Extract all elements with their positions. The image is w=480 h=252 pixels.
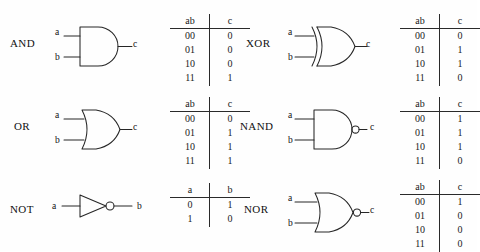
- header-output: c: [210, 14, 250, 28]
- table-divider: [209, 183, 210, 227]
- header-output: c: [440, 180, 480, 194]
- cell-input: 11: [170, 71, 210, 85]
- cell-input: 11: [400, 71, 440, 85]
- cell-input: 01: [400, 43, 440, 57]
- cell-output: 0: [210, 57, 250, 71]
- table-divider: [439, 180, 440, 252]
- header-output: b: [210, 183, 250, 197]
- cell-output: 1: [440, 57, 480, 71]
- truth-table-xor: ab c 00 0 01 1 10 1 11 0: [400, 14, 480, 85]
- cell-input: 00: [400, 112, 440, 126]
- input-label-xor-b: b: [288, 52, 293, 62]
- input-label-nand-b: b: [288, 135, 293, 145]
- cell-input: 11: [400, 237, 440, 251]
- table-header-row: ab c: [400, 14, 480, 28]
- table-divider: [439, 14, 440, 86]
- input-label-nor-a: a: [288, 193, 292, 203]
- or-gate-symbol: [62, 105, 138, 155]
- table-header-row: ab c: [400, 180, 480, 194]
- gate-label-nor: NOR: [244, 203, 268, 215]
- table-row: 00 1: [400, 195, 480, 209]
- cell-input: 01: [400, 126, 440, 140]
- header-inputs: ab: [400, 97, 440, 111]
- input-label-nor-b: b: [288, 218, 293, 228]
- cell-output: 1: [440, 126, 480, 140]
- table-row: 10 0: [400, 223, 480, 237]
- table-row: 00 1: [400, 112, 480, 126]
- table-header-row: ab c: [400, 97, 480, 111]
- truth-table-and: ab c 00 0 01 0 10 0 11 1: [170, 14, 250, 85]
- input-label-and-b: b: [55, 52, 60, 62]
- nand-gate-symbol: [295, 105, 375, 155]
- input-label-or-b: b: [55, 135, 60, 145]
- table-row: 01 1: [400, 126, 480, 140]
- header-inputs: ab: [400, 14, 440, 28]
- xor-gate-symbol: [295, 22, 371, 72]
- input-label-nand-a: a: [288, 110, 292, 120]
- header-inputs: ab: [170, 14, 210, 28]
- input-label-and-a: a: [55, 27, 59, 37]
- header-output: c: [210, 97, 250, 111]
- cell-output: 0: [440, 223, 480, 237]
- table-row: 10 1: [400, 57, 480, 71]
- table-row: 00 0: [170, 29, 250, 43]
- cell-output: 1: [440, 112, 480, 126]
- cell-output: 1: [210, 140, 250, 154]
- cell-input: 01: [170, 126, 210, 140]
- cell-input: 01: [170, 43, 210, 57]
- truth-table-or: ab c 00 0 01 1 10 1 11 1: [170, 97, 250, 168]
- cell-input: 0: [170, 198, 210, 212]
- gate-label-or: OR: [14, 120, 30, 132]
- cell-output: 1: [440, 43, 480, 57]
- inversion-bubble: [106, 202, 114, 210]
- table-row: 10 1: [170, 140, 250, 154]
- cell-input: 10: [400, 57, 440, 71]
- cell-output: 0: [210, 29, 250, 43]
- header-inputs: a: [170, 183, 210, 197]
- table-row: 01 0: [170, 43, 250, 57]
- table-header-row: ab c: [170, 14, 250, 28]
- cell-input: 01: [400, 209, 440, 223]
- header-output: c: [440, 14, 480, 28]
- input-label-not-a: a: [52, 201, 56, 211]
- table-row: 11 0: [400, 154, 480, 168]
- and-gate-symbol: [62, 22, 138, 72]
- gate-label-xor: XOR: [246, 37, 270, 49]
- table-row: 0 1: [170, 198, 250, 212]
- cell-output: 1: [210, 154, 250, 168]
- cell-input: 00: [170, 112, 210, 126]
- header-output: c: [440, 97, 480, 111]
- table-row: 01 1: [170, 126, 250, 140]
- table-row: 10 1: [400, 140, 480, 154]
- table-row: 11 0: [400, 71, 480, 85]
- cell-input: 1: [170, 212, 210, 226]
- cell-output: 0: [440, 209, 480, 223]
- gate-label-nand: NAND: [240, 120, 273, 132]
- table-row: 1 0: [170, 212, 250, 226]
- table-row: 00 0: [400, 29, 480, 43]
- cell-input: 00: [400, 29, 440, 43]
- cell-input: 10: [170, 57, 210, 71]
- table-row: 11 1: [170, 154, 250, 168]
- cell-input: 00: [170, 29, 210, 43]
- cell-output: 0: [210, 43, 250, 57]
- table-divider: [439, 97, 440, 169]
- inversion-bubble: [352, 126, 359, 133]
- cell-output: 0: [440, 154, 480, 168]
- cell-input: 11: [400, 154, 440, 168]
- table-row: 10 0: [170, 57, 250, 71]
- cell-output: 0: [440, 237, 480, 251]
- header-inputs: ab: [170, 97, 210, 111]
- table-divider: [209, 14, 210, 86]
- table-row: 00 0: [170, 112, 250, 126]
- table-row: 01 0: [400, 209, 480, 223]
- gate-label-not: NOT: [10, 203, 34, 215]
- table-divider: [209, 97, 210, 169]
- cell-input: 00: [400, 195, 440, 209]
- truth-table-nand: ab c 00 1 01 1 10 1 11 0: [400, 97, 480, 168]
- cell-input: 10: [170, 140, 210, 154]
- input-label-or-a: a: [55, 110, 59, 120]
- cell-input: 11: [170, 154, 210, 168]
- table-header-row: ab c: [170, 97, 250, 111]
